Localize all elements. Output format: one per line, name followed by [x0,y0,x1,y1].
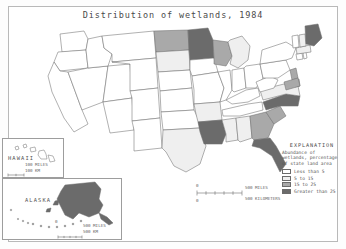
legend-label-0: Less than 5 [294,169,324,174]
state-SD [156,50,190,72]
state-TN [222,102,263,116]
alaska-inset: ALASKA 500 MILES 500 KM 0 [2,178,122,240]
state-FL [252,138,286,172]
legend-label-2: 15 to 25 [294,182,316,187]
state-MO [192,72,224,104]
hawaii-scale-miles: 100 MILES [25,162,48,167]
state-NE [158,70,192,91]
main-scale-zero-km: 0 [196,198,199,203]
legend: EXPLANATION Abundance of wetlands, perce… [282,142,342,196]
state-UT [103,64,132,102]
legend-swatch-3 [282,189,291,194]
state-NY [260,42,296,64]
legend-item-1[interactable]: 5 to 15 [282,176,342,181]
alaska-scale-bar [57,235,91,240]
legend-swatch-2 [282,182,291,187]
state-IN [232,68,246,92]
figure-page: Distribution of wetlands, 1984 [0,0,346,249]
state-AL [236,116,252,142]
state-AR [194,102,222,122]
legend-item-0[interactable]: Less than 5 [282,169,342,174]
legend-subtitle-line-2: of state land area [282,161,342,166]
state-MI [228,36,250,68]
state-OR [54,50,88,71]
state-WA [60,31,88,52]
state-TX [162,128,206,172]
legend-heading: EXPLANATION [282,142,342,148]
alaska-scale: 500 MILES 500 KM 0 [57,225,109,244]
state-CO [130,88,160,121]
hawaii-scale-km: 100 KM [25,168,40,173]
state-OK [161,110,200,130]
alaska-scale-miles: 500 MILES [83,223,106,228]
state-NM [132,118,162,151]
legend-swatch-0 [282,169,291,174]
legend-item-3[interactable]: Greater than 25 [282,189,342,194]
state-KS [160,88,194,112]
state-ME [305,24,322,46]
alaska-scale-km: 500 KM [83,229,98,234]
hawaii-inset: HAWAII 100 MILES 100 KM [2,138,64,178]
state-MN [188,28,214,60]
state-VT [292,35,299,48]
alaska-scale-zero: 0 [55,219,58,224]
state-shapes [48,24,322,172]
legend-item-2[interactable]: 15 to 25 [282,182,342,187]
hawaii-label: HAWAII [8,155,34,161]
main-scale-km: 500 KILOMETERS [245,196,280,201]
legend-swatch-1 [282,176,291,181]
legend-label-1: 5 to 15 [294,176,313,181]
state-AZ [103,98,134,133]
main-scale-zero: 0 [196,183,199,188]
legend-label-3: Greater than 25 [294,189,336,194]
state-ND [154,30,189,52]
alaska-label: ALASKA [25,197,51,203]
legend-subtitle: Abundance of wetlands, percentage of sta… [282,150,342,166]
state-NH [299,34,306,47]
main-scale-bar [196,189,252,197]
main-scale-miles: 500 MILES [245,185,268,190]
